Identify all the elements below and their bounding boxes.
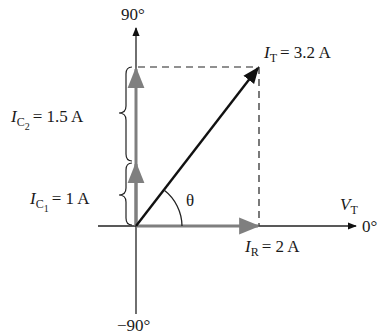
theta-arc xyxy=(164,190,182,226)
label-vt: VT xyxy=(340,195,358,217)
label-90deg: 90° xyxy=(121,5,145,24)
label-neg90deg: −90° xyxy=(117,316,150,334)
label-0deg: 0° xyxy=(362,217,377,236)
brace-ic2 xyxy=(119,67,132,161)
label-ic2: IC2= 1.5 A xyxy=(10,107,84,132)
label-ir: IR= 2 A xyxy=(244,237,300,259)
phasor-diagram: 90° −90° 0° VT IT= 3.2 A IC2= 1.5 A IC1=… xyxy=(0,0,385,334)
label-it: IT= 3.2 A xyxy=(263,43,331,65)
brace-ic1 xyxy=(119,163,132,225)
label-ic1: IC1= 1 A xyxy=(29,189,90,214)
label-theta: θ xyxy=(186,191,194,210)
phasor-it xyxy=(136,68,258,226)
